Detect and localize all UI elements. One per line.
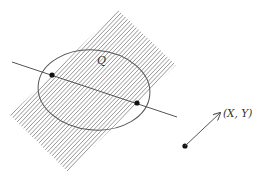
- hatch-line: [77, 0, 264, 179]
- hatch-line: [81, 0, 264, 179]
- hatch-line: [245, 0, 264, 179]
- hatch-line: [0, 0, 17, 179]
- hatch-line: [170, 0, 264, 179]
- hatch-line: [140, 0, 264, 179]
- hatch-line: [191, 0, 264, 179]
- hatch-line: [0, 0, 42, 179]
- hatch-line: [111, 0, 264, 179]
- hatch-line: [182, 0, 264, 179]
- hatch-line: [195, 0, 264, 179]
- hatch-line: [0, 0, 34, 179]
- hatch-line: [107, 0, 264, 179]
- hatch-line: [136, 0, 264, 179]
- hatch-line: [186, 0, 264, 179]
- hatch-line: [207, 0, 264, 179]
- hatch-line: [0, 0, 92, 179]
- hatch-line: [237, 0, 264, 179]
- hatch-line: [0, 0, 193, 179]
- hatch-line: [0, 0, 67, 179]
- intersection-point-left: [49, 72, 54, 77]
- hatch-line: [0, 0, 134, 179]
- hatch-line: [0, 0, 143, 179]
- hatch-line: [216, 0, 264, 179]
- hatch-line: [165, 0, 264, 179]
- hatch-line: [2, 0, 202, 179]
- hatch-line: [241, 0, 264, 179]
- hatch-line: [0, 0, 168, 179]
- hatch-line: [199, 0, 264, 179]
- hatch-line: [254, 0, 264, 179]
- intersection-point-right: [134, 100, 139, 105]
- diagram-canvas: Q (X, Y): [0, 0, 264, 179]
- hatch-line: [144, 0, 264, 179]
- hatch-line: [0, 0, 4, 179]
- hatch-line: [0, 0, 55, 179]
- hatch-line: [224, 0, 264, 179]
- hatch-line: [0, 0, 59, 179]
- hatch-line: [203, 0, 264, 179]
- hatch-line: [115, 0, 264, 179]
- hatch-line: [0, 0, 38, 179]
- hatch-line: [174, 0, 264, 179]
- hatch-line: [0, 0, 8, 179]
- hatch-line: [233, 0, 264, 179]
- hatch-line: [102, 0, 264, 179]
- arrow-label: (X, Y): [223, 107, 252, 119]
- hatched-band: [0, 0, 264, 179]
- hatch-line: [132, 0, 264, 179]
- hatch-line: [149, 0, 264, 179]
- hatch-line: [73, 0, 264, 179]
- hatch-line: [0, 0, 25, 179]
- hatch-line: [6, 0, 206, 179]
- hatch-line: [161, 0, 264, 179]
- hatch-line: [0, 0, 21, 179]
- ellipse-label: Q: [97, 54, 106, 67]
- hatch-line: [228, 0, 264, 179]
- hatch-line: [220, 0, 264, 179]
- hatch-line: [212, 0, 264, 179]
- hatch-line: [0, 0, 63, 179]
- hatch-line: [0, 0, 109, 179]
- hatch-line: [258, 0, 264, 179]
- hatch-line: [0, 0, 185, 179]
- hatch-line: [0, 0, 50, 179]
- secant-line: [12, 62, 177, 117]
- hatch-line: [128, 0, 264, 179]
- hatch-line: [249, 0, 264, 179]
- hatch-line: [157, 0, 264, 179]
- direction-arrow: [185, 113, 220, 146]
- hatch-line: [153, 0, 264, 179]
- hatch-line: [0, 0, 29, 179]
- hatch-line: [0, 0, 118, 179]
- hatch-line: [178, 0, 264, 179]
- hatch-line: [262, 0, 264, 179]
- hatch-line: [0, 0, 84, 179]
- hatch-line: [0, 0, 13, 179]
